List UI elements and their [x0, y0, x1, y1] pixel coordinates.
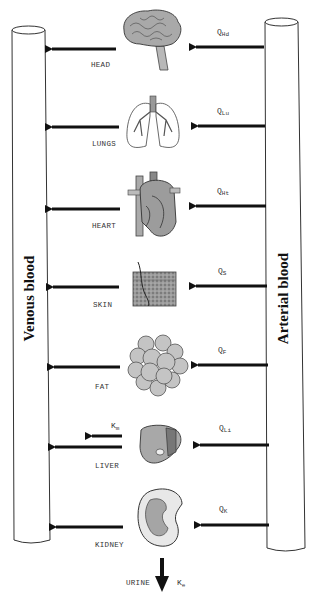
organ-label-skin: SKIN [93, 301, 112, 309]
flow-label-heart: QHt [217, 186, 229, 197]
fat-icon [128, 335, 188, 396]
flow-label-skin: QS [218, 266, 226, 277]
urine-label: URINE [126, 579, 150, 587]
organ-label-liver: LIVER [95, 462, 119, 470]
venous-blood-label: Venous blood [21, 249, 38, 349]
diagram-canvas [0, 0, 316, 602]
excretion-label-ke: Ke [177, 578, 185, 589]
organ-label-lungs: LUNGS [92, 140, 116, 148]
flow-label-fat: QF [218, 345, 226, 356]
flow-label-kidney: QK [219, 504, 227, 515]
arterial-blood-label: Arterial blood [275, 249, 292, 349]
organ-label-heart: HEART [92, 222, 116, 230]
lungs-icon [127, 96, 179, 147]
kidney-icon [138, 489, 182, 546]
organ-label-head: HEAD [91, 61, 110, 69]
organ-label-fat: FAT [95, 383, 109, 391]
organ-label-kidney: KIDNEY [95, 541, 124, 549]
urine-arrow [155, 558, 169, 592]
flow-label-liver: QLi [219, 423, 231, 434]
flow-label-lungs: QLu [217, 106, 229, 117]
flow-label-head: QHd [217, 27, 229, 38]
metabolism-label-km: Km [111, 421, 119, 432]
skin-icon [133, 262, 176, 306]
brain-icon [124, 10, 181, 70]
heart-icon [128, 172, 180, 236]
liver-icon [140, 425, 181, 463]
